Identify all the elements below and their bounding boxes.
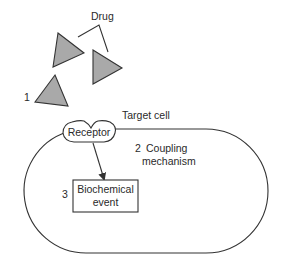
target-cell-label: Target cell — [122, 109, 170, 121]
drug-molecule-icon — [35, 75, 68, 106]
drug-molecule-icon — [93, 50, 122, 84]
step-2-label: 2 — [135, 142, 141, 154]
biochemical-event-line1: Biochemical — [77, 183, 134, 195]
receptor-label: Receptor — [68, 126, 111, 138]
step-3-label: 3 — [62, 188, 68, 200]
drug-receptor-diagram: Drug 1 Target cell Receptor 2 Coupling m… — [0, 0, 288, 260]
coupling-arrow — [93, 143, 104, 179]
drug-label-bracket — [78, 25, 108, 52]
drug-molecule-icon — [53, 33, 84, 67]
coupling-label-line1: Coupling — [146, 142, 188, 154]
step-1-label: 1 — [24, 91, 30, 103]
biochemical-event-line2: event — [93, 196, 119, 208]
drug-label: Drug — [91, 10, 114, 22]
coupling-label-line2: mechanism — [142, 155, 196, 167]
